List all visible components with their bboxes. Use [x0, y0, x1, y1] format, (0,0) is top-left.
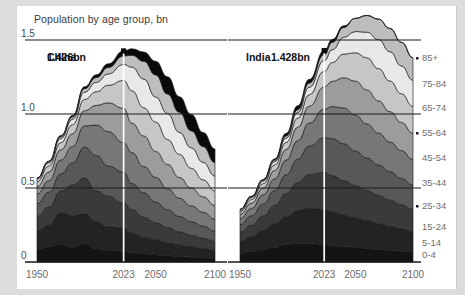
- chart-screenshot: Population by age group, bn 00.51.01.519…: [0, 0, 465, 295]
- legend-label-55-64: 55-64: [422, 127, 446, 138]
- x-tick-label: 2100: [204, 269, 227, 280]
- y-tick-label: 1.5: [21, 28, 35, 39]
- x-tick-label: 2023: [313, 269, 336, 280]
- y-tick-label: 0.5: [21, 176, 35, 187]
- legend-tick-dot: [416, 205, 419, 208]
- legend-label-45-54: 45-54: [422, 152, 446, 163]
- x-tick-label: 2023: [113, 269, 136, 280]
- legend-label-0-4: 0-4: [422, 249, 436, 260]
- x-tick-label: 1950: [26, 269, 49, 280]
- x-tick-label: 2100: [402, 269, 425, 280]
- legend-tick-dot: [416, 132, 419, 135]
- legend-label-15-24: 15-24: [422, 221, 446, 232]
- y-tick-label: 0: [21, 250, 27, 261]
- peak-marker: [322, 48, 327, 53]
- legend-label-35-44: 35-44: [422, 177, 446, 188]
- population-area-chart: 00.51.01.5195020232050210019502023205021…: [0, 0, 465, 295]
- x-tick-label: 2050: [145, 269, 168, 280]
- panel-china: [37, 48, 215, 262]
- legend-label-85plus: 85+: [422, 52, 439, 63]
- legend-label-25-34: 25-34: [422, 200, 446, 211]
- legend-tick-dot: [416, 57, 419, 60]
- x-tick-label: 1950: [229, 269, 252, 280]
- y-tick-label: 1.0: [21, 102, 35, 113]
- legend-label-5-14: 5-14: [422, 237, 441, 248]
- legend-label-65-74: 65-74: [422, 102, 446, 113]
- peak-value-china: 1.426bn: [47, 51, 86, 63]
- legend-label-75-84: 75-84: [422, 78, 446, 89]
- peak-value-india: 1.428bn: [271, 51, 310, 63]
- peak-marker: [121, 48, 126, 53]
- panel-title-india: India: [246, 51, 271, 63]
- x-tick-label: 2050: [344, 269, 367, 280]
